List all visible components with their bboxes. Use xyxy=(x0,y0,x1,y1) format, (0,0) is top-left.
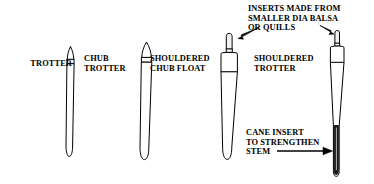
shouldered-chub-insert xyxy=(226,33,232,49)
shouldered-chub-ring-band xyxy=(226,49,232,52)
label-cane-note: CANE INSERT TO STRENGTHEN STEM xyxy=(246,128,336,157)
label-chub-trotter: CHUB TROTTER xyxy=(84,54,138,73)
trotter-tip xyxy=(67,47,74,60)
label-trotter: TROTTER xyxy=(12,59,72,69)
figure-canvas: TROTTER CHUB TROTTER SHOULDERED CHUB FLO… xyxy=(0,0,374,184)
label-shouldered-trotter: SHOULDERED TROTTER xyxy=(254,54,326,73)
shouldered-chub-body xyxy=(221,72,237,160)
label-shouldered-chub-float: SHOULDERED CHUB FLOAT xyxy=(150,54,222,73)
shouldered-chub-shoulder xyxy=(221,52,237,72)
shouldered-trotter-shoulder xyxy=(330,46,344,62)
trotter-body xyxy=(66,64,74,157)
label-inserts-note: INSERTS MADE FROM SMALLER DIA BALSA OR Q… xyxy=(248,4,370,33)
float-shouldered-chub xyxy=(221,33,237,159)
chub-trotter-body xyxy=(140,62,152,159)
